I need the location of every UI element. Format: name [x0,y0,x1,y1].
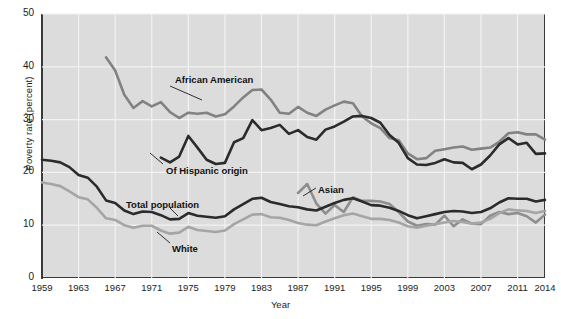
series-label-white: White [172,243,198,254]
chart-canvas [0,0,561,319]
x-tick-label: 1991 [324,282,345,293]
x-tick-label: 2003 [434,282,455,293]
series-label-total-population: Total population [126,199,199,210]
x-tick-label: 1959 [31,282,52,293]
y-tick-label: 10 [2,218,34,229]
x-tick-label: 1979 [214,282,235,293]
x-tick-label: 1983 [251,282,272,293]
series-label-of-hispanic-origin: Of Hispanic origin [166,165,248,176]
leader-line [170,86,202,100]
x-tick-label: 1967 [105,282,126,293]
series-lines [42,57,545,233]
y-axis-title: Poverty rate (percent) [23,54,34,194]
series-line-white [42,182,545,233]
series-label-african-american: African American [175,74,253,85]
series-line-african-american [106,57,545,159]
x-tick-label: 1987 [287,282,308,293]
y-tick-label: 0 [2,271,34,282]
poverty-rate-line-chart: 01020304050 1959196319671971197519791983… [0,0,561,319]
x-tick-label: 2014 [534,282,555,293]
y-tick-label: 50 [2,7,34,18]
x-tick-label: 2007 [470,282,491,293]
series-label-asian: Asian [318,184,344,195]
x-tick-label: 1999 [397,282,418,293]
x-tick-label: 1971 [141,282,162,293]
x-axis-title: Year [0,299,561,310]
series-line-of-hispanic-origin [161,116,545,169]
gridlines [42,14,545,278]
x-tick-label: 1963 [68,282,89,293]
x-tick-label: 2011 [507,282,527,293]
x-tick-label: 1995 [361,282,382,293]
x-tick-label: 1975 [178,282,199,293]
